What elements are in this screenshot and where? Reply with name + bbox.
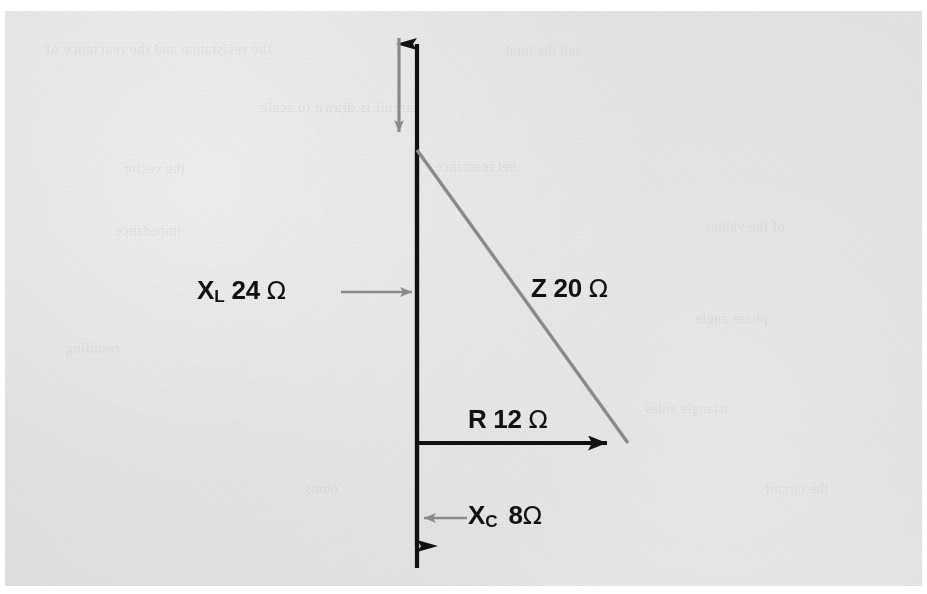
label-z-value: 20 <box>553 273 582 303</box>
ohm-symbol-icon: Ω <box>267 276 286 305</box>
label-impedance: Z20Ω <box>531 273 608 304</box>
label-inductive-reactance: XL24Ω <box>197 275 286 306</box>
label-r-symbol: R <box>468 404 487 434</box>
impedance-triangle-diagram <box>0 0 927 594</box>
label-xc-value: 8 <box>508 500 522 530</box>
ohm-symbol-icon: Ω <box>529 405 548 434</box>
ohm-symbol-icon: Ω <box>589 274 608 303</box>
label-r-value: 12 <box>493 404 522 434</box>
label-xl-symbol: X <box>197 275 214 305</box>
label-capacitive-reactance: XC8Ω <box>468 500 542 531</box>
figure-page: the resistance and the reactance ofand t… <box>0 0 927 594</box>
label-xc-symbol: X <box>468 500 485 530</box>
label-xl-value: 24 <box>231 275 260 305</box>
label-xc-subscript: C <box>485 511 497 531</box>
label-z-symbol: Z <box>531 273 547 303</box>
label-resistance: R12Ω <box>468 404 548 435</box>
ohm-symbol-icon: Ω <box>523 501 542 530</box>
label-xl-subscript: L <box>214 286 224 306</box>
